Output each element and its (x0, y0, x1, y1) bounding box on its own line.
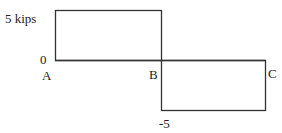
zero-label: 0 (40, 53, 47, 66)
negative-shear-region (162, 61, 266, 111)
point-b-label: B (149, 68, 158, 81)
point-a-label: A (42, 69, 51, 82)
positive-shear-region (56, 11, 162, 61)
top-value-label: 5 kips (5, 12, 36, 25)
bottom-value-label: -5 (159, 117, 170, 130)
shear-diagram: 5 kips 0 A B C -5 (0, 0, 282, 133)
point-c-label: C (268, 67, 277, 80)
